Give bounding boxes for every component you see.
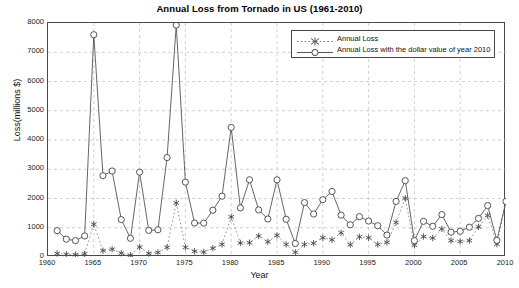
x-tick-label: 1960: [39, 258, 56, 267]
x-tick-label: 1985: [268, 258, 285, 267]
x-axis-title: Year: [0, 270, 519, 280]
y-tick-label: 3000: [4, 164, 44, 172]
legend-label-annual-loss: Annual Loss: [335, 34, 378, 43]
y-tick-label: 1000: [4, 223, 44, 231]
x-tick-label: 1990: [313, 258, 330, 267]
x-tick-label: 1995: [359, 258, 376, 267]
chart-figure: Annual Loss from Tornado in US (1961-201…: [0, 0, 519, 288]
y-axis-tick-labels: 010002000300040005000600070008000: [0, 22, 44, 256]
legend-item-annual-loss-2010-dollars: Annual Loss with the dollar value of yea…: [295, 44, 490, 55]
legend-symbol-circle: [295, 44, 335, 55]
x-tick-label: 2010: [497, 258, 514, 267]
y-tick-label: 7000: [4, 47, 44, 55]
chart-canvas: [48, 23, 506, 257]
y-tick-label: 6000: [4, 77, 44, 85]
y-tick-label: 2000: [4, 194, 44, 202]
x-tick-label: 1980: [222, 258, 239, 267]
legend-label-annual-loss-2010-dollars: Annual Loss with the dollar value of yea…: [335, 45, 490, 54]
x-axis-tick-labels: 1960196519701975198019851990199520002005…: [47, 258, 505, 270]
chart-legend: Annual Loss Annual Loss with the dollar …: [291, 30, 495, 58]
y-tick-label: 5000: [4, 106, 44, 114]
x-tick-label: 1970: [130, 258, 147, 267]
x-tick-label: 2005: [451, 258, 468, 267]
legend-item-annual-loss: Annual Loss: [295, 33, 490, 44]
y-tick-label: 8000: [4, 18, 44, 26]
x-tick-label: 1965: [84, 258, 101, 267]
y-axis-title: Loss(millions $): [12, 60, 22, 160]
legend-symbol-asterisk: [295, 33, 335, 44]
chart-title: Annual Loss from Tornado in US (1961-201…: [0, 3, 519, 14]
x-tick-label: 2000: [405, 258, 422, 267]
x-tick-label: 1975: [176, 258, 193, 267]
y-tick-label: 4000: [4, 135, 44, 143]
